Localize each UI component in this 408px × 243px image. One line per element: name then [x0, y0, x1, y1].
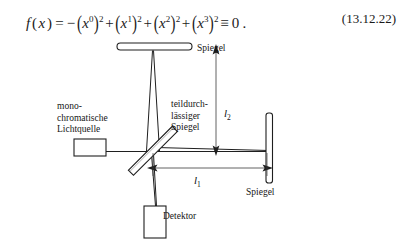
equation-term-2-base: x — [159, 15, 166, 31]
equation-terminator: . — [241, 15, 248, 31]
equation-term-3-power: 2 — [214, 14, 219, 24]
label-beam-splitter-line-3: Spiegel — [171, 122, 227, 134]
beam-vertical-lower — [152, 154, 157, 206]
label-beam-splitter: teildurch- lässiger Spiegel — [171, 99, 227, 134]
label-detector: Detektor — [163, 211, 196, 223]
equation-lhs-close-paren: ) — [45, 15, 53, 31]
equation-equals-sign: = — [54, 15, 66, 31]
equation-rhs: 0 — [230, 15, 241, 31]
label-light-source: mono- chromatische Lichtquelle — [57, 101, 131, 136]
equation-lhs-open-paren: ( — [30, 15, 38, 31]
equation-term-0-sign: − — [65, 15, 77, 31]
label-beam-splitter-line-2: lässiger — [171, 111, 227, 123]
dimension-label-l1: l1 — [194, 174, 201, 189]
equation-identity-sign: ≡ — [219, 15, 231, 31]
equation-formula: f(x)=−(x0)2+(x1)2+(x2)2+(x3)2≡0. — [26, 6, 248, 36]
dimension-label-l2-subscript: 2 — [227, 113, 231, 122]
label-light-source-line-3: Lichtquelle — [57, 124, 131, 136]
label-light-source-line-2: chromatische — [57, 113, 131, 125]
dimension-label-l2: l2 — [224, 107, 231, 122]
light-source-box — [74, 139, 106, 156]
interferometer-figure: mono- chromatische Lichtquelle teildurch… — [0, 34, 408, 243]
equation-term-1-sign: + — [104, 15, 116, 31]
equation-term-2-sign: + — [142, 15, 154, 31]
beam-vertical-upper — [147, 51, 160, 152]
label-light-source-line-1: mono- — [57, 101, 131, 113]
equation-row: f(x)=−(x0)2+(x1)2+(x2)2+(x3)2≡0. (13.12.… — [0, 6, 408, 34]
equation-term-3-sign: + — [180, 15, 192, 31]
equation-number: (13.12.22) — [342, 6, 396, 32]
dimension-arrow-l1 — [147, 153, 273, 176]
interferometer-drawing — [0, 34, 408, 243]
label-beam-splitter-line-1: teildurch- — [171, 99, 227, 111]
equation-term-0-power: 2 — [99, 14, 104, 24]
dimension-label-l1-subscript: 1 — [197, 180, 201, 189]
figure-page: f(x)=−(x0)2+(x1)2+(x2)2+(x3)2≡0. (13.12.… — [0, 0, 408, 243]
label-mirror-right: Spiegel — [246, 187, 275, 199]
mirror-top-icon — [117, 43, 192, 50]
beam-horizontal — [106, 148, 269, 152]
label-mirror-top: Spiegel — [197, 43, 226, 55]
